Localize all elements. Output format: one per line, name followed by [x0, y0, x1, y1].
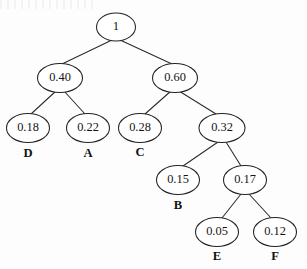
tree-edge-n_017-to-n_005	[222, 194, 241, 218]
node-value-n_005: 0.05	[206, 224, 228, 238]
tree-canvas: 10.400.600.180.220.280.320.150.170.050.1…	[0, 0, 307, 269]
tree-node-n_017: 0.17	[224, 166, 267, 195]
tree-edge-n_root-to-n_040	[62, 40, 112, 64]
tree-node-n_012: 0.12	[254, 218, 297, 247]
node-value-n_012: 0.12	[264, 224, 286, 238]
tree-node-n_015: 0.15	[157, 166, 200, 195]
leaf-label-E: E	[213, 249, 221, 263]
nodes-group: 10.400.600.180.220.280.320.150.170.050.1…	[7, 13, 297, 247]
tree-edge-n_032-to-n_017	[226, 142, 241, 166]
tree-edge-n_root-to-n_060	[120, 40, 172, 64]
leaf-label-B: B	[174, 198, 183, 212]
leaf-label-A: A	[83, 146, 92, 160]
tree-edge-n_040-to-n_022	[64, 91, 85, 114]
node-value-n_060: 0.60	[164, 70, 186, 84]
tree-node-n_022: 0.22	[67, 114, 110, 143]
node-value-n_017: 0.17	[234, 172, 256, 186]
leaf-label-C: C	[135, 145, 144, 159]
node-value-n_root: 1	[113, 19, 119, 33]
node-value-n_015: 0.15	[167, 172, 189, 186]
tree-node-n_018: 0.18	[7, 114, 50, 143]
node-value-n_028: 0.28	[129, 120, 151, 134]
tree-node-n_root: 1	[97, 13, 136, 41]
leaf-label-D: D	[23, 146, 32, 160]
tree-edge-n_040-to-n_018	[31, 91, 56, 114]
tree-edge-n_032-to-n_015	[183, 142, 218, 166]
tree-node-n_040: 0.40	[38, 64, 83, 93]
huffman-tree-diagram: 10.400.600.180.220.280.320.150.170.050.1…	[0, 0, 307, 269]
tree-edge-n_017-to-n_012	[249, 194, 271, 218]
tree-node-n_005: 0.05	[196, 218, 239, 247]
node-value-n_022: 0.22	[77, 120, 99, 134]
tree-node-n_032: 0.32	[199, 114, 245, 143]
leaf-labels-group: DACBEF	[23, 145, 279, 263]
tree-node-n_028: 0.28	[119, 114, 162, 143]
node-value-n_018: 0.18	[17, 120, 39, 134]
node-value-n_032: 0.32	[211, 120, 233, 134]
node-value-n_040: 0.40	[49, 70, 71, 84]
tree-node-n_060: 0.60	[153, 64, 198, 93]
tree-edge-n_060-to-n_028	[145, 91, 171, 114]
leaf-label-F: F	[271, 249, 279, 263]
tree-edge-n_060-to-n_032	[179, 91, 216, 114]
